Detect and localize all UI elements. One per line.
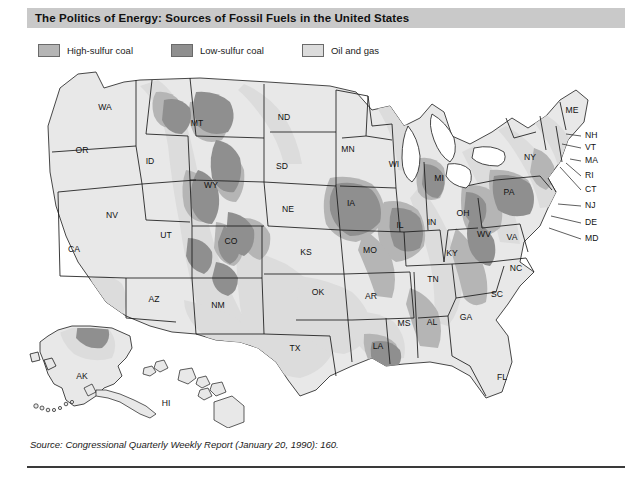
legend-label-oil-and-gas: Oil and gas	[331, 45, 379, 56]
leader-line-CT	[560, 167, 581, 190]
state-label-ME: ME	[566, 105, 579, 115]
hawaii-inset: HI	[143, 360, 244, 428]
state-label-SC: SC	[491, 289, 503, 299]
state-label-WV: WV	[477, 229, 491, 239]
legend-swatch-low-sulfur-coal	[171, 44, 193, 57]
state-label-MD: MD	[585, 233, 598, 243]
state-label-KY: KY	[446, 248, 458, 258]
state-label-FL: FL	[497, 372, 507, 382]
legend-label-high-sulfur-coal: High-sulfur coal	[67, 45, 133, 56]
state-label-TX: TX	[290, 343, 301, 353]
state-label-AZ: AZ	[149, 294, 160, 304]
legend-label-low-sulfur-coal: Low-sulfur coal	[200, 45, 264, 56]
state-label-ID: ID	[146, 156, 155, 166]
state-label-GA: GA	[460, 312, 473, 322]
state-label-MA: MA	[585, 155, 598, 165]
legend-item-high-sulfur-coal: High-sulfur coal	[38, 44, 133, 57]
leader-line-DE	[551, 216, 581, 223]
figure-container: The Politics of Energy: Sources of Fossi…	[0, 0, 638, 481]
state-label-MO: MO	[363, 245, 377, 255]
state-label-NH: NH	[585, 130, 597, 140]
state-label-IN: IN	[428, 217, 437, 227]
state-label-NM: NM	[211, 300, 224, 310]
leader-line-RI	[566, 163, 581, 176]
state-label-IL: IL	[396, 220, 403, 230]
state-label-CO: CO	[225, 236, 238, 246]
state-label-NV: NV	[106, 210, 118, 220]
alaska-inset: AK	[30, 321, 156, 418]
state-label-MI: MI	[434, 173, 444, 183]
state-label-OK: OK	[312, 287, 325, 297]
state-label-UT: UT	[160, 230, 172, 240]
legend-item-low-sulfur-coal: Low-sulfur coal	[171, 44, 264, 57]
state-label-WI: WI	[389, 159, 400, 169]
state-label-NC: NC	[510, 263, 522, 273]
legend-item-oil-and-gas: Oil and gas	[302, 44, 379, 57]
source-citation: Source: Congressional Quarterly Weekly R…	[30, 439, 339, 450]
state-label-WA: WA	[98, 102, 112, 112]
legend-swatch-oil-and-gas	[302, 44, 324, 57]
state-label-NJ: NJ	[585, 200, 596, 210]
state-label-WY: WY	[204, 180, 218, 190]
state-label-NE: NE	[282, 204, 294, 214]
state-label-MT: MT	[191, 118, 204, 128]
state-label-MN: MN	[341, 144, 354, 154]
state-label-KS: KS	[300, 247, 312, 257]
state-label-PA: PA	[504, 187, 515, 197]
state-label-ND: ND	[278, 112, 290, 122]
state-label-CA: CA	[68, 244, 80, 254]
leader-line-MA	[570, 159, 581, 161]
state-label-SD: SD	[276, 161, 288, 171]
legend-swatch-high-sulfur-coal	[38, 44, 60, 57]
state-label-HI: HI	[162, 398, 171, 408]
state-label-CT: CT	[585, 184, 597, 194]
state-label-LA: LA	[373, 341, 384, 351]
state-label-RI: RI	[585, 170, 594, 180]
state-label-IA: IA	[347, 198, 355, 208]
leader-line-MD	[549, 228, 581, 239]
state-label-MS: MS	[398, 318, 411, 328]
page-title: The Politics of Energy: Sources of Fossi…	[27, 12, 409, 24]
state-label-VA: VA	[507, 232, 518, 242]
state-label-OR: OR	[76, 145, 89, 155]
state-label-OH: OH	[457, 208, 470, 218]
state-label-AL: AL	[427, 317, 438, 327]
map-legend: High-sulfur coal Low-sulfur coal Oil and…	[38, 44, 417, 57]
state-label-TN: TN	[427, 274, 438, 284]
us-map: WA OR ID MT WY ND SD NE MN WI IA IL IN M…	[0, 66, 638, 428]
figure-title-bar: The Politics of Energy: Sources of Fossi…	[27, 8, 625, 28]
bottom-divider	[27, 466, 625, 468]
leader-line-NJ	[558, 204, 581, 206]
state-label-VT: VT	[585, 142, 597, 152]
state-label-NY: NY	[524, 152, 536, 162]
state-label-AR: AR	[365, 291, 377, 301]
state-label-DE: DE	[585, 217, 597, 227]
state-label-AK: AK	[76, 371, 88, 381]
